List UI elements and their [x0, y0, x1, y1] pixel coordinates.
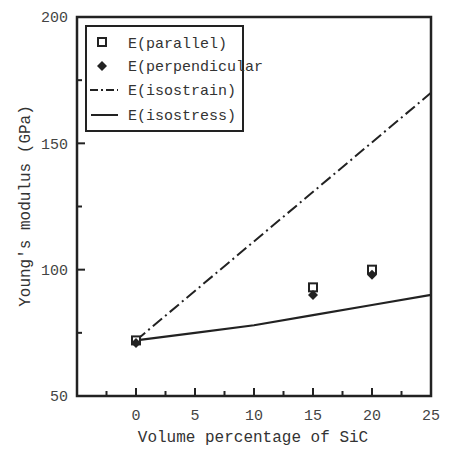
legend: E(parallel) E(perpendicular E(isostrain)… — [86, 26, 263, 131]
y-tick-100: 100 — [41, 263, 68, 280]
legend-label-perpendicular: E(perpendicular — [128, 59, 263, 76]
legend-label-parallel: E(parallel) — [128, 36, 227, 53]
legend-square-icon — [98, 38, 106, 46]
x-tick-0: 0 — [131, 408, 140, 425]
isostress-line — [136, 295, 431, 340]
x-tick-5: 5 — [190, 408, 199, 425]
y-tick-150: 150 — [41, 137, 68, 154]
chart: 200 150 100 50 0 5 10 15 20 25 Volume pe… — [0, 0, 455, 464]
legend-label-isostrain: E(isostrain) — [128, 83, 236, 100]
x-tick-25: 25 — [422, 408, 440, 425]
x-tick-10: 10 — [245, 408, 263, 425]
y-tick-50: 50 — [50, 389, 68, 406]
legend-label-isostress: E(isostress) — [128, 108, 236, 125]
x-tick-15: 15 — [304, 408, 322, 425]
y-axis-label: Young's modulus (GPa) — [17, 105, 35, 307]
x-tick-20: 20 — [363, 408, 381, 425]
x-axis-label: Volume percentage of SiC — [138, 429, 368, 447]
y-tick-200: 200 — [41, 10, 68, 27]
